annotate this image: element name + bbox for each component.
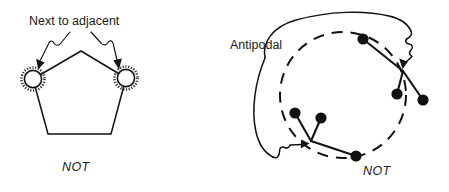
- right-panel-drawing: [224, 0, 449, 192]
- figure-root: Next to adjacent NOT: [0, 0, 449, 192]
- antipodal-squiggle-arrow-lower-shaft: [273, 145, 302, 158]
- label-next-to-adjacent: Next to adjacent: [29, 14, 119, 28]
- panel-next-to-adjacent: Next to adjacent NOT: [0, 0, 224, 192]
- point-lower-2: [315, 112, 326, 123]
- antipodal-leader-curve-left: [254, 58, 273, 157]
- point-lower-3: [350, 150, 361, 161]
- double-circle-marker-right: [117, 69, 134, 86]
- antipodal-squiggle-arrow-upper-shaft: [406, 31, 413, 62]
- double-circle-marker-left: [24, 70, 41, 87]
- label-antipodal: Antipodal: [230, 38, 282, 52]
- left-panel-drawing: [0, 0, 224, 192]
- dashed-circle: [280, 32, 406, 158]
- point-upper-1: [357, 33, 368, 44]
- pentagon-outline: [33, 51, 126, 134]
- panel-antipodal: Antipodal NOT: [224, 0, 449, 192]
- squiggly-arrow-left-shaft: [41, 32, 71, 60]
- point-lower-1: [289, 107, 300, 118]
- caption-not-left: NOT: [62, 160, 90, 174]
- squiggly-arrow-right-shaft: [91, 32, 117, 60]
- cluster-upper-edge-1: [363, 39, 403, 71]
- point-upper-2: [391, 88, 402, 99]
- point-upper-3: [417, 94, 428, 105]
- caption-not-right: NOT: [363, 164, 391, 178]
